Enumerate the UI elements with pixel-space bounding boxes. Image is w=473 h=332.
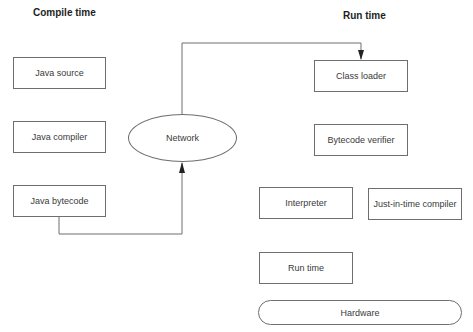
node-hardware: Hardware: [258, 300, 462, 325]
node-label: Class loader: [336, 71, 386, 81]
connector-lines: [0, 0, 473, 332]
node-label: Interpreter: [285, 198, 327, 208]
node-label: Just-in-time compiler: [373, 199, 456, 209]
node-label: Java bytecode: [30, 196, 88, 206]
node-jit-compiler: Just-in-time compiler: [368, 188, 462, 220]
node-label: Java compiler: [32, 132, 88, 142]
node-label: Bytecode verifier: [327, 135, 394, 145]
node-java-source: Java source: [13, 57, 106, 89]
node-label: Run time: [288, 263, 324, 273]
node-bytecode-verifier: Bytecode verifier: [314, 124, 408, 156]
node-class-loader: Class loader: [314, 60, 408, 92]
run-time-heading: Run time: [343, 10, 386, 21]
node-run-time: Run time: [259, 252, 353, 284]
node-network: Network: [128, 114, 237, 162]
node-java-bytecode: Java bytecode: [13, 185, 106, 217]
node-label: Hardware: [340, 308, 379, 318]
node-label: Network: [166, 133, 199, 143]
arrow-up-icon: [179, 162, 185, 173]
compile-time-heading: Compile time: [33, 7, 96, 18]
node-java-compiler: Java compiler: [13, 121, 106, 153]
node-interpreter: Interpreter: [259, 187, 353, 219]
arrow-down-icon: [358, 50, 364, 60]
node-label: Java source: [35, 68, 84, 78]
